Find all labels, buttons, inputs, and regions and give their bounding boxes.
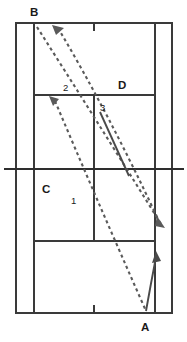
trajectory-shot-3 (58, 28, 158, 219)
label-shot-2: 2 (63, 83, 68, 93)
trajectory-shot-2 (37, 27, 161, 224)
label-shot-3: 3 (100, 103, 105, 113)
label-point-a: A (141, 322, 149, 334)
label-shot-1: 1 (71, 196, 76, 206)
label-point-d: D (118, 80, 126, 92)
court-svg (0, 0, 187, 342)
trajectory-shot-1-arrowhead (49, 96, 59, 106)
trajectory-shot-1 (55, 101, 146, 311)
return-stroke-arrowhead (152, 251, 161, 263)
trajectories (37, 25, 165, 311)
court-diagram: B D C A 2 3 1 (0, 0, 187, 342)
trajectory-shot-3-solid-segment (100, 112, 129, 176)
court-lines (4, 23, 184, 313)
label-point-b: B (30, 7, 38, 19)
label-point-c: C (42, 184, 50, 196)
